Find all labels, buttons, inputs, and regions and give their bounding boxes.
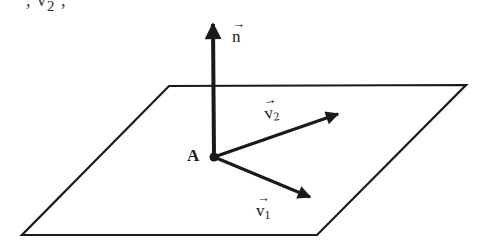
- cropped-tail: ,: [56, 0, 67, 10]
- cropped-subscript: 2: [47, 0, 56, 14]
- label-n-symbol: n: [232, 29, 245, 45]
- label-point-a: A: [187, 147, 199, 164]
- plane-normal-diagram: , v2 , → n → v2 → v1 A: [0, 0, 490, 251]
- label-v1-subscript: 1: [265, 208, 271, 222]
- label-n: → n: [232, 19, 245, 45]
- label-v1-symbol: v: [256, 201, 265, 220]
- normal-vector-n: [213, 24, 214, 157]
- cropped-caption-fragment: , v2 ,: [26, 0, 67, 14]
- point-a-dot: [210, 153, 219, 162]
- plane-parallelogram: [22, 85, 466, 235]
- cropped-text: , v: [26, 0, 47, 10]
- label-v1: → v1: [256, 193, 271, 223]
- diagram-svg: [0, 0, 490, 251]
